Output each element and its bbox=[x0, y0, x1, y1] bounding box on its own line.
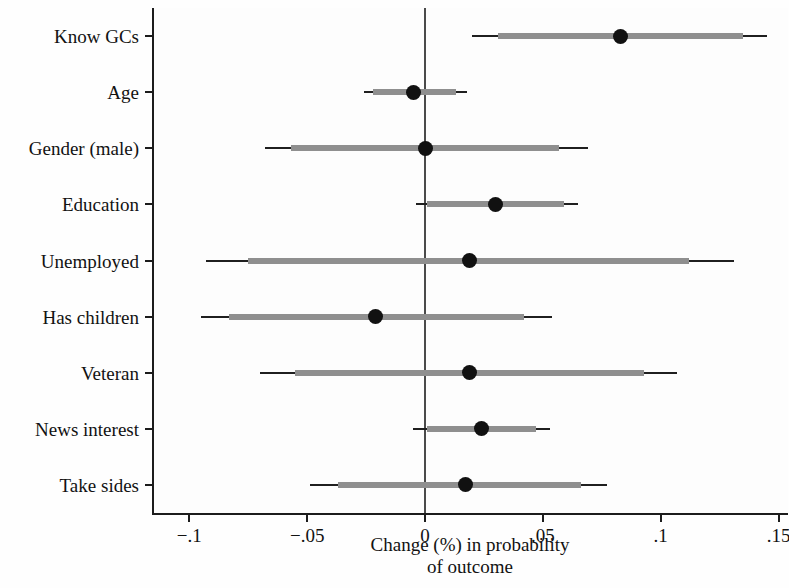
x-axis-title-line-1: Change (%) in probability bbox=[152, 534, 788, 556]
y-axis-tick bbox=[145, 203, 154, 205]
coefficient-row bbox=[154, 24, 788, 48]
plot-area: −.1−.050.05.1.15 bbox=[152, 8, 788, 515]
y-axis-category-label: Take sides bbox=[60, 475, 139, 494]
x-axis-tick bbox=[542, 513, 544, 522]
x-axis-tick bbox=[424, 513, 426, 522]
point-estimate-marker bbox=[462, 253, 477, 268]
x-axis-tick bbox=[306, 513, 308, 522]
coefficient-row bbox=[154, 361, 788, 385]
x-axis-tick bbox=[660, 513, 662, 522]
y-axis-tick bbox=[145, 316, 154, 318]
coefficient-row bbox=[154, 473, 788, 497]
point-estimate-marker bbox=[458, 477, 473, 492]
y-axis-category-label: Know GCs bbox=[54, 27, 139, 46]
point-estimate-marker bbox=[462, 365, 477, 380]
plot-inner: −.1−.050.05.1.15 bbox=[154, 8, 788, 513]
y-axis-tick bbox=[145, 260, 154, 262]
y-axis-category-label: Age bbox=[107, 83, 139, 102]
x-axis-tick bbox=[188, 513, 190, 522]
y-axis-category-label: Veteran bbox=[81, 363, 139, 382]
y-axis-tick bbox=[145, 91, 154, 93]
point-estimate-marker bbox=[488, 197, 503, 212]
y-axis-tick bbox=[145, 484, 154, 486]
chart-page: −.1−.050.05.1.15 Change (%) in probabili… bbox=[0, 0, 789, 588]
coefficient-row bbox=[154, 417, 788, 441]
coefficient-row bbox=[154, 249, 788, 273]
y-axis-tick bbox=[145, 35, 154, 37]
coefficient-row bbox=[154, 192, 788, 216]
y-axis-tick bbox=[145, 372, 154, 374]
point-estimate-marker bbox=[406, 85, 421, 100]
y-axis-category-label: Education bbox=[62, 195, 139, 214]
point-estimate-marker bbox=[474, 421, 489, 436]
coefficient-row bbox=[154, 80, 788, 104]
y-axis-category-label: Unemployed bbox=[41, 251, 139, 270]
x-axis-title: Change (%) in probability of outcome bbox=[152, 534, 788, 578]
y-axis-category-label: Has children bbox=[42, 307, 139, 326]
point-estimate-marker bbox=[613, 29, 628, 44]
point-estimate-marker bbox=[418, 141, 433, 156]
point-estimate-marker bbox=[368, 309, 383, 324]
coefficient-row bbox=[154, 305, 788, 329]
x-axis-tick bbox=[778, 513, 780, 522]
y-axis-tick bbox=[145, 428, 154, 430]
x-axis-title-line-2: of outcome bbox=[152, 556, 788, 578]
coefficient-row bbox=[154, 136, 788, 160]
y-axis-category-label: Gender (male) bbox=[29, 139, 139, 158]
y-axis-category-label: News interest bbox=[35, 419, 139, 438]
y-axis-tick bbox=[145, 147, 154, 149]
